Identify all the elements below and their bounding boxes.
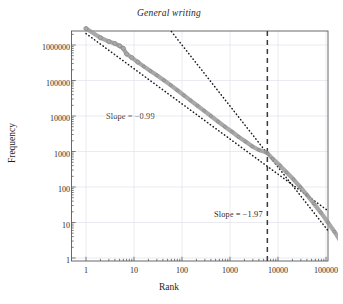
data-series-markers bbox=[84, 26, 338, 259]
data-series-band bbox=[86, 29, 338, 258]
fit-lines bbox=[86, 32, 328, 231]
gridlines bbox=[72, 31, 329, 261]
axis-ticks bbox=[72, 34, 327, 261]
plot-frame bbox=[72, 31, 329, 261]
